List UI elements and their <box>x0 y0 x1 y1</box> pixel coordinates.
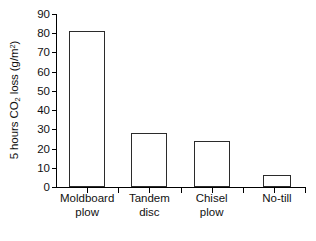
x-tick-mark <box>243 187 244 193</box>
y-axis-title-post: ) <box>8 41 20 45</box>
y-tick-mark <box>52 110 57 111</box>
y-tick-mark <box>52 129 57 130</box>
bar <box>69 31 105 187</box>
co2-loss-bar-chart: 5 hours CO2 loss (g/m2) 0102030405060708… <box>0 0 316 241</box>
y-axis-title-superscript: 2 <box>8 44 17 48</box>
x-axis-category-label: No-till <box>246 192 308 206</box>
y-axis-title-subscript: 2 <box>13 97 22 101</box>
x-axis-category-label-line1: Moldboard <box>60 192 114 204</box>
y-tick-mark <box>52 187 57 188</box>
x-axis-category-label-line2: plow <box>181 206 243 220</box>
y-tick-mark <box>52 91 57 92</box>
x-axis-category-label-line2: plow <box>56 206 118 220</box>
y-axis-title: 5 hours CO2 loss (g/m2) <box>8 12 20 188</box>
y-tick-mark <box>52 168 57 169</box>
plot-area: 0102030405060708090 <box>56 14 305 187</box>
x-axis-category-label: Moldboardplow <box>56 192 118 219</box>
y-tick-mark <box>52 52 57 53</box>
x-axis-category-label-line1: No-till <box>262 192 291 204</box>
bar <box>131 133 167 187</box>
y-axis-title-mid: loss (g/m <box>8 49 20 98</box>
y-tick-mark <box>52 14 57 15</box>
x-axis-category-label-line1: Chisel <box>196 192 228 204</box>
x-axis-category-label: Chiselplow <box>181 192 243 219</box>
y-tick-mark <box>52 33 57 34</box>
y-axis-title-pre: 5 hours CO <box>8 102 20 160</box>
x-axis-category-label-line2: disc <box>118 206 180 220</box>
x-axis-category-label: Tandemdisc <box>118 192 180 219</box>
y-tick-mark <box>52 149 57 150</box>
x-axis-category-label-line1: Tandem <box>129 192 170 204</box>
bar <box>263 175 291 187</box>
y-tick-mark <box>52 72 57 73</box>
bar <box>194 141 230 187</box>
